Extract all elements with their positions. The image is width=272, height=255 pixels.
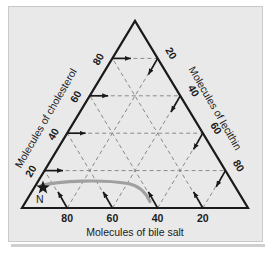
right-axis-title: Molecules of lecithin (187, 64, 245, 152)
left-axis-arrows (45, 58, 131, 170)
bottom-tick-0: 80 (61, 212, 73, 224)
right-tick-0: 20 (163, 45, 179, 61)
left-tick-2: 60 (67, 88, 83, 104)
left-tick-3: 80 (90, 51, 106, 67)
left-tick-labels: 20 40 60 80 (22, 51, 106, 179)
ternary-diagram-figure: N 80 60 40 20 Molecules of bile salt 20 … (0, 0, 272, 255)
bottom-tick-1: 60 (107, 212, 119, 224)
point-n-label: N (36, 193, 44, 205)
phase-boundary-curve (41, 181, 150, 201)
bottom-tick-3: 20 (197, 212, 209, 224)
ternary-plot-canvas: N 80 60 40 20 Molecules of bile salt 20 … (0, 0, 272, 255)
bottom-tick-2: 40 (152, 212, 164, 224)
left-axis-title: Molecules of cholesterol (12, 66, 79, 170)
right-tick-labels: 20 40 60 80 (163, 45, 247, 174)
bottom-tick-labels: 80 60 40 20 (61, 212, 208, 224)
left-tick-1: 40 (45, 126, 61, 142)
bottom-axis-title: Molecules of bile salt (86, 226, 184, 238)
bottom-axis-arrows (58, 192, 203, 208)
right-tick-3: 80 (231, 157, 247, 173)
